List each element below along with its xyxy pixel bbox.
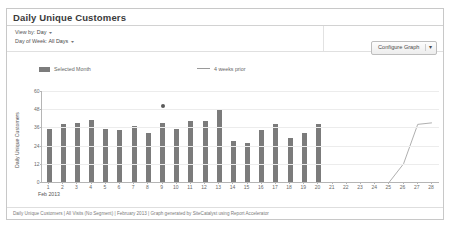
page-title: Daily Unique Customers: [7, 9, 443, 26]
x-axis-caption: Feb 2013: [38, 191, 60, 197]
x-axis-tick-mark: [317, 182, 318, 184]
legend-swatch-bar-icon: [39, 67, 50, 72]
view-by-value: Day: [37, 29, 47, 35]
x-axis-tick-mark: [218, 182, 219, 184]
chart-area: Daily Unique Customers 01224364860 12345…: [7, 79, 445, 201]
x-axis-tick-label: 26: [400, 184, 406, 191]
x-axis-tick-mark: [261, 182, 262, 184]
configure-graph-button[interactable]: Configure Graph ▾: [371, 41, 437, 55]
x-axis-tick-mark: [190, 182, 191, 184]
x-axis-tick-label: 25: [386, 184, 392, 191]
x-axis-tick-mark: [232, 182, 233, 184]
x-axis-tick-mark: [147, 182, 148, 184]
legend-item-4-weeks-prior: 4 weeks prior: [197, 65, 246, 73]
x-axis-tick-mark: [403, 182, 404, 184]
x-axis-tick-label: 24: [371, 184, 377, 191]
report-panel: Daily Unique Customers View by: Day ▾ Da…: [6, 8, 444, 220]
y-axis-tick-mark: [40, 164, 42, 165]
x-axis-tick-label: 10: [173, 184, 179, 191]
x-axis-tick-mark: [388, 182, 389, 184]
prior-line: [389, 123, 432, 182]
gridline: [42, 146, 439, 147]
x-axis-tick-label: 1: [47, 184, 50, 191]
x-axis-tick-mark: [346, 182, 347, 184]
x-axis-tick-mark: [332, 182, 333, 184]
chevron-down-icon: ▾: [49, 29, 52, 35]
gridline: [42, 109, 439, 110]
chart-legend: Selected Month 4 weeks prior: [7, 65, 443, 77]
y-axis-tick-mark: [40, 109, 42, 110]
y-axis-tick-label: 24: [34, 143, 40, 149]
day-of-week-dropdown[interactable]: Day of Week: All Days ▾: [15, 37, 315, 46]
x-axis-tick-label: 3: [75, 184, 78, 191]
chevron-down-icon: ▾: [71, 38, 74, 44]
controls-left-group: View by: Day ▾ Day of Week: All Days ▾: [15, 28, 315, 45]
x-axis-tick-mark: [119, 182, 120, 184]
y-axis-tick-label: 48: [34, 106, 40, 112]
y-axis-tick-label: 36: [34, 124, 40, 130]
legend-item-selected-month: Selected Month: [39, 65, 91, 73]
footer-text: Daily Unique Customers | All Visits (No …: [13, 210, 269, 217]
x-axis-tick-mark: [374, 182, 375, 184]
x-axis-tick-mark: [360, 182, 361, 184]
y-axis-tick-label: 12: [34, 161, 40, 167]
x-axis-tick-mark: [275, 182, 276, 184]
x-axis: 1234567891011121314151617181920212223242…: [41, 184, 439, 194]
x-axis-tick-label: 6: [118, 184, 121, 191]
configure-graph-wrap: Configure Graph ▾: [371, 35, 437, 55]
x-axis-tick-label: 23: [357, 184, 363, 191]
legend-label: 4 weeks prior: [214, 66, 246, 72]
screenshot-root: Daily Unique Customers View by: Day ▾ Da…: [0, 0, 450, 227]
y-axis-tick-mark: [40, 127, 42, 128]
configure-graph-label: Configure Graph: [378, 44, 419, 50]
x-axis-tick-label: 20: [315, 184, 321, 191]
view-by-dropdown[interactable]: View by: Day ▾: [15, 28, 315, 37]
x-axis-tick-label: 2: [61, 184, 64, 191]
x-axis-tick-label: 27: [414, 184, 420, 191]
x-axis-tick-mark: [204, 182, 205, 184]
x-axis-tick-mark: [76, 182, 77, 184]
x-axis-tick-mark: [247, 182, 248, 184]
x-axis-tick-label: 16: [258, 184, 264, 191]
x-axis-tick-mark: [91, 182, 92, 184]
controls-divider: [323, 26, 324, 51]
x-axis-tick-label: 4: [89, 184, 92, 191]
x-axis-tick-label: 21: [329, 184, 335, 191]
x-axis-tick-label: 19: [301, 184, 307, 191]
y-axis-tick-label: 60: [34, 88, 40, 94]
gridline: [42, 91, 439, 92]
x-axis-tick-label: 22: [343, 184, 349, 191]
y-axis-tick-mark: [40, 91, 42, 92]
x-axis-tick-mark: [417, 182, 418, 184]
x-axis-tick-label: 8: [146, 184, 149, 191]
x-axis-tick-mark: [48, 182, 49, 184]
x-axis-tick-label: 11: [187, 184, 192, 191]
x-axis-tick-mark: [62, 182, 63, 184]
x-axis-tick-mark: [162, 182, 163, 184]
day-of-week-value: All Days: [48, 38, 68, 44]
legend-swatch-line-icon: [197, 68, 210, 69]
y-axis-tick-mark: [40, 182, 42, 183]
x-axis-tick-label: 15: [244, 184, 250, 191]
chevron-down-icon: ▾: [425, 44, 432, 51]
gridline: [42, 127, 439, 128]
x-axis-tick-mark: [133, 182, 134, 184]
plot-area: 01224364860: [41, 91, 439, 183]
y-axis-label: Daily Unique Customers: [13, 97, 22, 183]
day-of-week-label: Day of Week:: [15, 38, 47, 44]
x-axis-tick-label: 5: [103, 184, 106, 191]
x-axis-tick-mark: [105, 182, 106, 184]
x-axis-tick-label: 14: [230, 184, 236, 191]
y-axis-tick-mark: [40, 146, 42, 147]
chart-footer: Daily Unique Customers | All Visits (No …: [7, 207, 443, 219]
prior-line-series: [42, 91, 439, 182]
x-axis-tick-label: 12: [201, 184, 207, 191]
x-axis-tick-mark: [431, 182, 432, 184]
x-axis-tick-label: 13: [215, 184, 221, 191]
x-axis-tick-mark: [176, 182, 177, 184]
x-axis-tick-label: 28: [428, 184, 434, 191]
x-axis-tick-mark: [289, 182, 290, 184]
x-axis-tick-label: 18: [286, 184, 292, 191]
gridline: [42, 164, 439, 165]
x-axis-tick-label: 9: [160, 184, 163, 191]
